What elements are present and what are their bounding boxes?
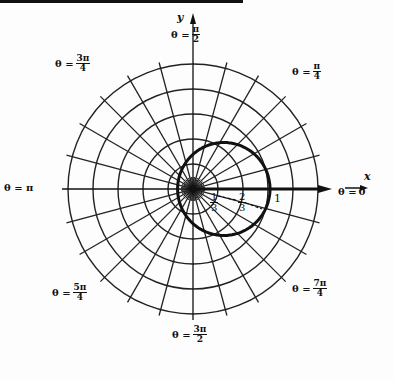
fraction-denominator: 2 [197, 335, 203, 344]
angle-label-theta-3pi-4: θ = 3π4 [55, 54, 90, 73]
angle-value: 0 [359, 186, 366, 197]
fraction-denominator: 4 [317, 289, 323, 298]
fraction-denominator: 4 [80, 64, 86, 73]
radial-grid-line [159, 62, 192, 187]
tick-one-third: 13 [210, 192, 218, 213]
angle-label-theta-5pi-4: θ = 5π4 [52, 283, 87, 302]
radial-grid-line [66, 155, 191, 188]
origin-dot [189, 185, 197, 193]
angle-fraction: 5π4 [73, 283, 88, 302]
angle-fraction: 3π2 [193, 325, 208, 344]
y-axis-label: y [177, 11, 183, 24]
fraction-denominator: 2 [193, 35, 199, 44]
radial-grid-line [194, 62, 227, 187]
x-axis-arrow-icon [318, 185, 332, 193]
angle-fraction: 7π4 [313, 279, 328, 298]
x-axis-label: x [364, 170, 371, 183]
fraction-denominator: 3 [211, 203, 217, 213]
angle-label-theta-3pi-2: θ = 3π2 [172, 325, 207, 344]
angle-label-theta-pi-4: θ = π4 [292, 62, 321, 81]
fraction-denominator: 4 [314, 72, 320, 81]
angle-label-theta-pi-2: θ = π2 [171, 25, 200, 44]
angle-label-prefix: θ = [292, 283, 311, 294]
angle-label-prefix: θ = π [4, 182, 33, 193]
angle-label-prefix: θ = [338, 186, 357, 197]
angle-label-theta-7pi-4: θ = 7π4 [292, 279, 327, 298]
angle-label-prefix: θ = [292, 66, 311, 77]
angle-label-prefix: θ = [52, 287, 71, 298]
y-axis-arrow-icon [190, 13, 196, 24]
radial-grid-line [66, 190, 191, 223]
angle-label-prefix: θ = [172, 329, 191, 340]
tick-two-thirds: 23 [238, 192, 246, 213]
angle-label-theta-pi: θ = π [4, 182, 33, 193]
radial-grid-line [159, 191, 192, 316]
angle-fraction: 3π4 [76, 54, 91, 73]
tick-one: 1 [274, 192, 281, 205]
polar-diagram: θ = 0θ = π4θ = π2θ = 3π4θ = πθ = 5π4θ = … [0, 0, 394, 380]
angle-label-prefix: θ = [55, 58, 74, 69]
angle-fraction: π4 [313, 62, 322, 81]
fraction-denominator: 4 [77, 293, 83, 302]
radial-grid-line [195, 155, 320, 188]
fraction-denominator: 3 [239, 203, 245, 213]
angle-fraction: π2 [192, 25, 201, 44]
angle-label-prefix: θ = [171, 29, 190, 40]
angle-label-theta-0: θ = 0 [338, 186, 366, 197]
